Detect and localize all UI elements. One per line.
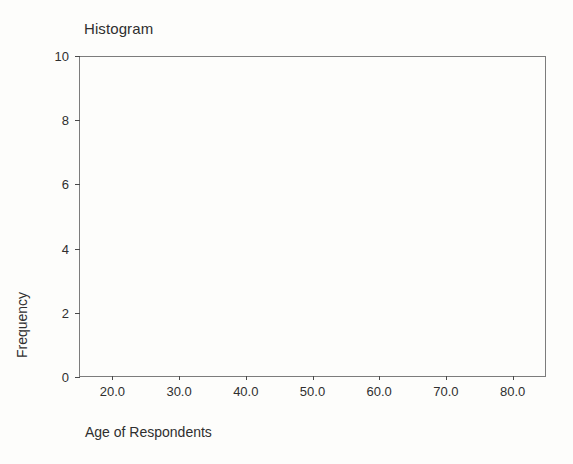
y-axis-tick-label: 6 (9, 178, 69, 191)
y-axis-tick-mark (75, 377, 80, 378)
x-axis-title: Age of Respondents (85, 424, 212, 441)
y-axis-title: Frequency (14, 292, 31, 358)
y-axis-tick-label: 0 (9, 371, 69, 384)
y-axis-tick-mark (75, 313, 80, 314)
x-axis-tick-mark (179, 376, 180, 380)
histogram-figure: Histogram 0246810 20.030.040.050.060.070… (0, 0, 573, 464)
x-axis-tick-mark (313, 376, 314, 380)
x-axis-tick-mark (513, 376, 514, 380)
y-axis-tick-mark (75, 184, 80, 185)
plot-area (79, 56, 546, 377)
x-axis-tick-mark (446, 376, 447, 380)
chart-title: Histogram (84, 20, 153, 38)
y-axis-tick-label: 4 (9, 243, 69, 256)
x-axis-tick-mark (379, 376, 380, 380)
y-axis-tick-label: 10 (9, 50, 69, 63)
y-axis-tick-mark (75, 56, 80, 57)
y-axis-tick-mark (75, 249, 80, 250)
y-axis-tick-mark (75, 120, 80, 121)
x-axis-tick-mark (112, 376, 113, 380)
y-axis-tick-label: 8 (9, 114, 69, 127)
x-axis-tick-mark (246, 376, 247, 380)
histogram-bars-container (80, 57, 545, 376)
x-axis-tick-label: 80.0 (473, 385, 553, 398)
